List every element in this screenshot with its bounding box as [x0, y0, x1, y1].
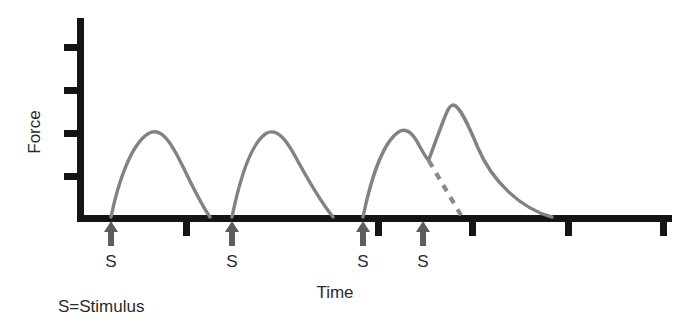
stimulus-label-1: S	[105, 252, 116, 271]
stimulus-label-4: S	[417, 252, 428, 271]
axis-group	[77, 18, 672, 219]
stimulus-arrow-1-icon	[104, 221, 118, 246]
twitch-curve-3-4-summation	[363, 105, 552, 217]
figure-container: S S S S Force Time S=Stimulus	[0, 0, 699, 327]
legend-stimulus-note: S=Stimulus	[58, 297, 144, 316]
twitch-curve-1	[111, 132, 210, 217]
stimulus-arrow-3-icon	[356, 221, 370, 246]
stimulus-arrow-4-icon	[416, 221, 430, 246]
stimulus-label-2: S	[226, 252, 237, 271]
twitch-summation-chart: S S S S Force Time S=Stimulus	[0, 0, 699, 327]
twitch-curve-2	[232, 132, 333, 217]
stimulus-labels: S S S S	[105, 252, 428, 271]
stimulus-label-3: S	[357, 252, 368, 271]
x-axis-title: Time	[316, 283, 353, 302]
y-axis-title: Force	[25, 110, 44, 153]
projected-relaxation-dashed-line	[429, 161, 462, 217]
stimulus-arrow-2-icon	[225, 221, 239, 246]
